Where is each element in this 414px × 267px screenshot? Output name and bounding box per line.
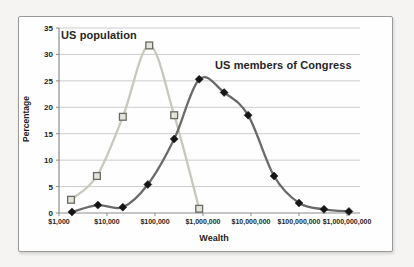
chart-frame: 05101520253035$1,000$10,000$100,000$1,00…	[18, 16, 393, 252]
y-axis-title: Percentage	[21, 96, 31, 142]
y-axis-tick-label: 25	[44, 77, 53, 86]
screenshot-background: 05101520253035$1,000$10,000$100,000$1,00…	[0, 0, 414, 267]
y-axis-tick-label: 10	[44, 156, 53, 165]
y-axis-tick-label: 0	[49, 209, 54, 218]
series-marker-us-population	[171, 112, 178, 119]
y-axis-tick-label: 20	[44, 103, 53, 112]
x-axis-title: Wealth	[189, 233, 239, 243]
y-axis-tick-label: 35	[44, 24, 53, 33]
series-marker-us-population	[196, 205, 203, 212]
series-marker-us-members-of-congress	[68, 208, 76, 216]
series-marker-us-members-of-congress	[94, 201, 102, 209]
series-marker-us-members-of-congress	[170, 135, 178, 143]
x-axis-tick-label: $10,000,000	[232, 218, 271, 226]
series-marker-us-population	[94, 173, 101, 180]
series-marker-us-members-of-congress	[320, 205, 328, 213]
x-axis-tick-label: $100,000,000	[278, 218, 321, 226]
series-label-us-population: US population	[61, 29, 137, 41]
series-marker-us-members-of-congress	[345, 207, 353, 215]
series-line-us-members-of-congress	[72, 77, 349, 212]
series-marker-us-members-of-congress	[119, 203, 127, 211]
series-marker-us-population	[68, 196, 75, 203]
y-axis-tick-label: 30	[44, 50, 53, 59]
x-axis-tick-label: $1,000,000	[185, 218, 220, 226]
y-axis-tick-label: 5	[49, 183, 54, 192]
wealth-distribution-chart: 05101520253035$1,000$10,000$100,000$1,00…	[19, 17, 394, 253]
series-marker-us-population	[119, 113, 126, 120]
x-axis-tick-label: $100,000	[140, 218, 169, 226]
y-axis-tick-label: 15	[44, 130, 53, 139]
series-marker-us-population	[146, 42, 153, 49]
x-axis-tick-label: $1,000,000,000	[323, 218, 372, 226]
x-axis-tick-label: $10,000	[94, 218, 119, 226]
x-axis-tick-label: $1,000	[48, 218, 70, 226]
series-label-us-members-of-congress: US members of Congress	[215, 59, 352, 71]
